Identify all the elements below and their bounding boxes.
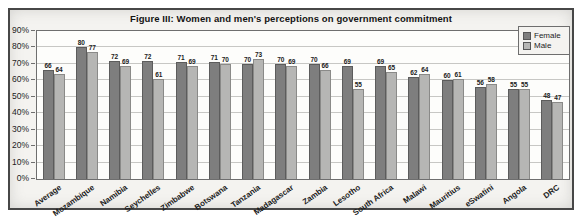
- y-tick-mark: [31, 46, 35, 47]
- y-tick-label: 20%: [6, 140, 29, 150]
- scanned-chart-page: Figure III: Women and men's perceptions …: [0, 0, 586, 221]
- chart-figure: Figure III: Women and men's perceptions …: [8, 8, 574, 210]
- bar-male-eswatini: [486, 84, 497, 179]
- bar-male-tanzania: [253, 59, 264, 179]
- bar-female-botswana: [209, 62, 220, 179]
- y-tick-label: 80%: [6, 41, 29, 51]
- bar-value-label: 66: [317, 62, 333, 69]
- bar-value-label: 70: [217, 56, 233, 63]
- bar-value-label: 58: [483, 76, 499, 83]
- bar-value-label: 69: [118, 58, 134, 65]
- legend-label-male: Male: [534, 41, 551, 50]
- y-tick-mark: [31, 79, 35, 80]
- bar-female-mauritius: [442, 80, 453, 179]
- male-swatch-icon: [523, 42, 531, 50]
- bar-value-label: 69: [184, 58, 200, 65]
- legend-entry-male: Male: [523, 41, 565, 50]
- bar-male-average: [54, 74, 65, 179]
- bar-male-angola: [519, 89, 530, 179]
- y-tick-mark: [31, 30, 35, 31]
- bar-female-angola: [508, 89, 519, 179]
- bar-female-zambia: [309, 64, 320, 179]
- bar-female-namibia: [109, 61, 120, 179]
- bar-male-seychelles: [153, 79, 164, 179]
- legend-entry-female: Female: [523, 31, 565, 40]
- bar-value-label: 65: [384, 64, 400, 71]
- y-tick-mark: [31, 129, 35, 130]
- bar-female-average: [43, 70, 54, 179]
- y-tick-mark: [31, 112, 35, 113]
- bar-male-namibia: [120, 66, 131, 179]
- bar-male-botswana: [220, 64, 231, 179]
- bar-female-zimbabwe: [176, 62, 187, 179]
- y-tick-label: 90%: [6, 25, 29, 35]
- bar-male-mauritius: [453, 79, 464, 179]
- plot-area: 6664807772697261716971707073706970666955…: [36, 30, 570, 180]
- bar-value-label: 69: [284, 58, 300, 65]
- y-tick-label: 0%: [6, 173, 29, 183]
- bar-female-south-africa: [375, 66, 386, 179]
- bar-value-label: 64: [417, 66, 433, 73]
- bar-value-label: 64: [51, 66, 67, 73]
- y-tick-mark: [31, 63, 35, 64]
- y-tick-mark: [31, 162, 35, 163]
- bar-male-mozambique: [87, 52, 98, 179]
- bar-male-drc: [552, 102, 563, 179]
- y-tick-label: 60%: [6, 74, 29, 84]
- y-tick-label: 30%: [6, 124, 29, 134]
- bar-value-label: 73: [251, 51, 267, 58]
- bar-male-south-africa: [386, 72, 397, 179]
- female-swatch-icon: [523, 32, 531, 40]
- bar-male-lesotho: [353, 89, 364, 179]
- bar-value-label: 55: [517, 81, 533, 88]
- bar-value-label: 47: [550, 94, 566, 101]
- y-tick-mark: [31, 178, 35, 179]
- bar-female-tanzania: [242, 64, 253, 179]
- legend: Female Male: [518, 26, 570, 55]
- bar-value-label: 61: [450, 71, 466, 78]
- bar-value-label: 55: [350, 81, 366, 88]
- y-tick-mark: [31, 96, 35, 97]
- chart-title: Figure III: Women and men's perceptions …: [10, 13, 572, 24]
- bar-female-malawi: [408, 77, 419, 179]
- bar-female-mozambique: [76, 47, 87, 179]
- y-tick-label: 70%: [6, 58, 29, 68]
- bar-value-label: 77: [84, 44, 100, 51]
- bar-male-malawi: [419, 74, 430, 179]
- legend-label-female: Female: [534, 31, 561, 40]
- bar-female-eswatini: [475, 87, 486, 179]
- gridline: [37, 46, 569, 47]
- bar-male-madagascar: [286, 66, 297, 179]
- bar-female-drc: [541, 100, 552, 179]
- bar-value-label: 72: [140, 53, 156, 60]
- bar-female-madagascar: [275, 64, 286, 179]
- bar-male-zimbabwe: [187, 66, 198, 179]
- y-tick-label: 50%: [6, 91, 29, 101]
- y-tick-mark: [31, 145, 35, 146]
- y-tick-label: 40%: [6, 107, 29, 117]
- bar-value-label: 61: [151, 71, 167, 78]
- y-tick-label: 10%: [6, 157, 29, 167]
- bar-value-label: 69: [339, 58, 355, 65]
- bar-female-seychelles: [142, 61, 153, 179]
- bar-male-zambia: [320, 70, 331, 179]
